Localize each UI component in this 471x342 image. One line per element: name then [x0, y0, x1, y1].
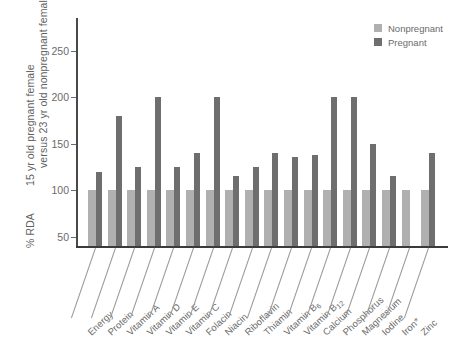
bar-pregnant [135, 167, 141, 246]
plot-area: 50100150200250 [76, 18, 451, 248]
legend-swatch-icon [374, 24, 382, 32]
x-tick-mark [228, 248, 253, 318]
y-tick-label: 200 [51, 91, 69, 103]
bar-group [264, 18, 284, 246]
bar-nonpregnant [323, 190, 331, 246]
y-tick-label: 150 [51, 138, 69, 150]
bar-nonpregnant [88, 190, 96, 246]
y-axis-title-group: 15 yr old pregnant female versus 23 yr o… [0, 0, 56, 260]
bar-nonpregnant [402, 190, 410, 246]
bar-group [127, 18, 147, 246]
bar-pregnant [194, 153, 200, 246]
bar-nonpregnant [206, 190, 214, 246]
bar-nonpregnant [186, 190, 194, 246]
bar-group [186, 18, 206, 246]
y-tick-mark [71, 190, 76, 191]
x-tick-label: Zinc [418, 317, 439, 338]
bar-pregnant [292, 157, 298, 246]
bar-nonpregnant [304, 190, 312, 246]
bar-nonpregnant [362, 190, 370, 246]
bar-pregnant [116, 116, 122, 246]
y-tick-mark [71, 144, 76, 145]
bar-group [362, 18, 382, 246]
bar-pregnant [253, 167, 259, 246]
bar-nonpregnant [382, 190, 390, 246]
bar-pregnant [155, 97, 161, 246]
bar-group [166, 18, 186, 246]
x-tick-mark [91, 248, 116, 318]
legend-label: Nonpregnant [388, 23, 443, 34]
legend-swatch-icon [374, 38, 382, 46]
bar-pregnant [390, 176, 396, 246]
bar-pregnant [214, 97, 220, 246]
bar-series-group [78, 18, 451, 246]
bar-pregnant [351, 97, 357, 246]
bar-pregnant [272, 153, 278, 246]
bar-pregnant [312, 155, 318, 246]
chart-legend: NonpregnantPregnant [374, 22, 443, 50]
bar-nonpregnant [343, 190, 351, 246]
x-tick-mark [110, 248, 135, 318]
bar-pregnant [96, 172, 102, 246]
bar-group [225, 18, 245, 246]
bar-group [343, 18, 363, 246]
bar-nonpregnant [225, 190, 233, 246]
y-axis-title-line1: 15 yr old pregnant female [24, 64, 36, 186]
bar-pregnant [233, 176, 239, 246]
y-tick-mark [71, 51, 76, 52]
chart-container: 15 yr old pregnant female versus 23 yr o… [0, 0, 471, 342]
y-tick-label: 100 [51, 184, 69, 196]
bar-pregnant [429, 153, 435, 246]
bar-group [147, 18, 167, 246]
y-tick-mark [71, 97, 76, 98]
bar-pregnant [174, 167, 180, 246]
legend-item[interactable]: Nonpregnant [374, 22, 443, 34]
bar-group [206, 18, 226, 246]
bar-group [421, 18, 441, 246]
bar-group [245, 18, 265, 246]
y-axis-unit-label: % RDA [24, 213, 36, 248]
bar-group [402, 18, 422, 246]
y-tick-label: 250 [51, 45, 69, 57]
bar-group [304, 18, 324, 246]
bar-nonpregnant [284, 190, 292, 246]
bar-nonpregnant [245, 190, 253, 246]
bar-nonpregnant [108, 190, 116, 246]
bar-nonpregnant [264, 190, 272, 246]
bar-pregnant [370, 144, 376, 246]
y-tick-mark [71, 237, 76, 238]
bar-nonpregnant [166, 190, 174, 246]
bar-group [88, 18, 108, 246]
y-axis-title-line2: versus 23 yr old nonpregnant female [37, 0, 49, 168]
bar-nonpregnant [127, 190, 135, 246]
bar-group [284, 18, 304, 246]
legend-label: Pregnant [388, 37, 427, 48]
x-tick-mark [404, 248, 429, 318]
legend-item[interactable]: Pregnant [374, 36, 443, 48]
y-tick-label: 50 [57, 231, 69, 243]
bar-group [108, 18, 128, 246]
bar-nonpregnant [147, 190, 155, 246]
bar-nonpregnant [421, 190, 429, 246]
bar-pregnant [331, 97, 337, 246]
bar-group [382, 18, 402, 246]
x-tick-mark [71, 248, 96, 318]
bar-group [323, 18, 343, 246]
x-axis-labels: EnergyProteinVitamin AVitamin DVitamin E… [76, 248, 451, 342]
